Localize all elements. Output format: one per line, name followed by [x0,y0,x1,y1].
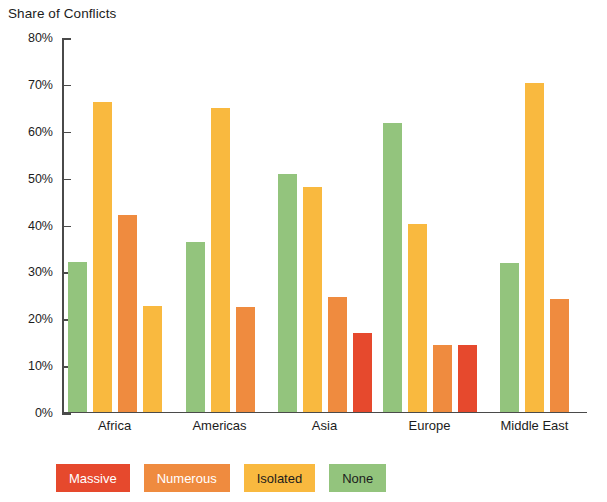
bar[interactable] [93,102,112,412]
bar[interactable] [303,187,322,412]
y-axis-tick-mark [62,413,71,415]
bar[interactable] [143,306,162,411]
x-axis-category-label: Africa [62,418,167,433]
bar[interactable] [186,242,205,412]
y-axis-tick-label: 40% [28,219,53,233]
y-axis-tick-label: 10% [28,359,53,373]
x-axis-line [62,412,587,414]
x-axis-category-label: Asia [272,418,377,433]
x-axis-category-labels: AfricaAmericasAsiaEuropeMiddle East [62,418,587,433]
bar[interactable] [118,215,137,411]
bar[interactable] [500,263,519,412]
bar[interactable] [278,174,297,411]
bar[interactable] [550,299,569,412]
legend-item[interactable]: Massive [56,464,130,492]
y-axis-tick-label: 0% [35,406,53,420]
y-axis-tick-label: 30% [28,265,53,279]
bar[interactable] [525,83,544,411]
bar[interactable] [408,224,427,412]
bar[interactable] [383,123,402,411]
y-axis-tick-label: 50% [28,172,53,186]
bar[interactable] [433,345,452,412]
x-axis-category-label: Middle East [482,418,587,433]
legend-item[interactable]: None [329,464,386,492]
bar[interactable] [328,297,347,412]
bar-group [482,38,587,412]
bar[interactable] [211,108,230,412]
bar-group [273,38,378,412]
y-axis-tick-label: 80% [28,31,53,45]
bar-groups [63,38,587,412]
y-axis-tick-label: 20% [28,312,53,326]
bar-group [63,38,168,412]
chart-title: Share of Conflicts [8,6,116,21]
x-axis-category-label: Europe [377,418,482,433]
bar[interactable] [236,307,255,411]
y-axis-tick-label: 70% [28,78,53,92]
legend-item[interactable]: Numerous [144,464,230,492]
y-axis-tick-label: 60% [28,125,53,139]
chart-container: Share of Conflicts 80%70%60%50%40%30%20%… [0,0,607,502]
plot-area: 80%70%60%50%40%30%20%10%0% [62,38,587,413]
x-axis-category-label: Americas [167,418,272,433]
bar-group [377,38,482,412]
bar[interactable] [458,345,477,412]
bar[interactable] [353,333,372,412]
bar-group [168,38,273,412]
chart-legend: MassiveNumerousIsolatedNone [56,464,386,492]
bar[interactable] [68,262,87,412]
legend-item[interactable]: Isolated [244,464,316,492]
